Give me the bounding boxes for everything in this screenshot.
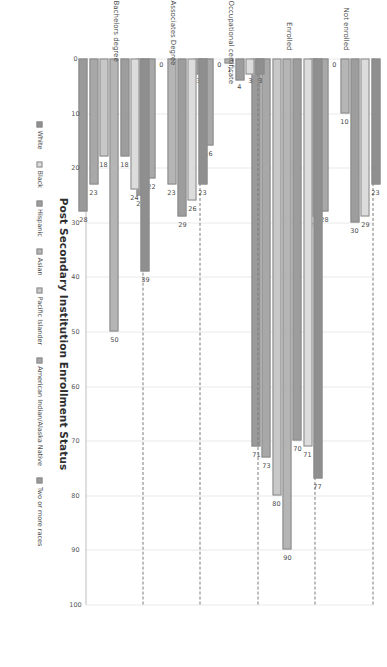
legend-item[interactable]: White bbox=[35, 121, 43, 149]
legend-label: Pacific Islander bbox=[35, 296, 43, 345]
bar-value-label: 23 bbox=[167, 188, 176, 196]
bar-row: 1 bbox=[225, 58, 234, 604]
legend-swatch-icon bbox=[36, 287, 42, 293]
bar-row: 77 bbox=[313, 58, 322, 604]
bar-value-label: 0 bbox=[217, 60, 221, 68]
bar-two-or-more-races[interactable] bbox=[78, 58, 87, 211]
chart-figure: 2329301002829777170908073713341016323262… bbox=[0, 0, 387, 667]
bar-white[interactable] bbox=[313, 58, 322, 478]
legend-label: Black bbox=[35, 170, 43, 188]
bar-row: 23 bbox=[167, 58, 176, 604]
plot-canvas: 2329301002829777170908073713341016323262… bbox=[85, 58, 373, 604]
chart-title: Post Secondary Institution Enrollment St… bbox=[57, 0, 69, 667]
bar-row: 71 bbox=[303, 58, 312, 604]
legend-swatch-icon bbox=[36, 200, 42, 206]
bar-value-label: 77 bbox=[313, 483, 322, 491]
bar-row: 29 bbox=[177, 58, 186, 604]
bar-row: 50 bbox=[109, 58, 118, 604]
bar-row: 23 bbox=[198, 58, 207, 604]
bar-row: 30 bbox=[350, 58, 359, 604]
bar-row: 39 bbox=[140, 58, 149, 604]
bar-value-label: 0 bbox=[159, 60, 163, 68]
legend-item[interactable]: Hispanic bbox=[35, 200, 43, 237]
bar-black[interactable] bbox=[130, 58, 139, 189]
category-label: Occupational certificate bbox=[226, 0, 234, 54]
bar-value-label: 18 bbox=[99, 161, 108, 169]
bar-row: 26 bbox=[188, 58, 197, 604]
bar-black[interactable] bbox=[188, 58, 197, 200]
bar-value-label: 3 bbox=[258, 77, 262, 85]
legend-item[interactable]: American Indian/Alaska Native bbox=[35, 357, 43, 466]
bar-white[interactable] bbox=[255, 58, 264, 74]
bar-row: 3 bbox=[245, 58, 254, 604]
bar-row: 18 bbox=[120, 58, 129, 604]
bar-value-label: 80 bbox=[272, 499, 281, 507]
bar-value-label: 26 bbox=[188, 204, 197, 212]
bar-row: 18 bbox=[99, 58, 108, 604]
legend-swatch-icon bbox=[36, 357, 42, 363]
legend-swatch-icon bbox=[36, 477, 42, 483]
bar-white[interactable] bbox=[198, 58, 207, 184]
chart-legend: WhiteBlackHispanicAsianPacific IslanderA… bbox=[35, 0, 43, 667]
plot-area: 2329301002829777170908073713341016323262… bbox=[85, 58, 373, 604]
bar-value-label: 71 bbox=[303, 450, 312, 458]
bar-pacific-islander[interactable] bbox=[272, 58, 281, 495]
chart-screenshot: 2329301002829777170908073713341016323262… bbox=[0, 0, 387, 667]
bar-value-label: 23 bbox=[198, 188, 207, 196]
bar-value-label: 23 bbox=[371, 188, 380, 196]
category-label: Associates Degree bbox=[168, 0, 176, 54]
bar-value-label: 90 bbox=[282, 554, 291, 562]
bar-pacific-islander[interactable] bbox=[99, 58, 108, 156]
bar-value-label: 29 bbox=[360, 221, 369, 229]
legend-item[interactable]: Asian bbox=[35, 248, 43, 275]
bar-black[interactable] bbox=[360, 58, 369, 216]
bar-white[interactable] bbox=[140, 58, 149, 271]
category-label: Bachelors degree bbox=[111, 0, 119, 54]
bar-value-label: 50 bbox=[109, 335, 118, 343]
bar-asian[interactable] bbox=[340, 58, 349, 113]
bar-white[interactable] bbox=[371, 58, 380, 184]
bar-black[interactable] bbox=[303, 58, 312, 446]
legend-swatch-icon bbox=[36, 248, 42, 254]
bar-hispanic[interactable] bbox=[235, 58, 244, 80]
bar-asian[interactable] bbox=[282, 58, 291, 549]
legend-swatch-icon bbox=[36, 121, 42, 127]
legend-item[interactable]: Black bbox=[35, 161, 43, 188]
legend-swatch-icon bbox=[36, 161, 42, 167]
bar-value-label: 24 bbox=[130, 193, 139, 201]
bar-value-label: 18 bbox=[120, 161, 129, 169]
bar-american-indian-alaska-native[interactable] bbox=[89, 58, 98, 184]
category-label: Not enrolled bbox=[341, 0, 349, 54]
bar-hispanic[interactable] bbox=[350, 58, 359, 222]
bar-row: 4 bbox=[235, 58, 244, 604]
bar-row: 80 bbox=[272, 58, 281, 604]
bar-black[interactable] bbox=[245, 58, 254, 74]
bar-row: 0 bbox=[157, 58, 166, 604]
bar-value-label: 29 bbox=[177, 221, 186, 229]
bar-row: 70 bbox=[292, 58, 301, 604]
bar-row: 29 bbox=[360, 58, 369, 604]
bar-value-label: 10 bbox=[340, 117, 349, 125]
bar-row: 23 bbox=[371, 58, 380, 604]
bar-value-label: 4 bbox=[237, 82, 241, 90]
legend-label: Asian bbox=[35, 257, 43, 275]
bar-row: 10 bbox=[340, 58, 349, 604]
bar-hispanic[interactable] bbox=[292, 58, 301, 440]
bar-value-label: 3 bbox=[247, 77, 251, 85]
bar-asian[interactable] bbox=[109, 58, 118, 331]
bar-row: 90 bbox=[282, 58, 291, 604]
bar-row: 0 bbox=[329, 58, 338, 604]
bar-asian[interactable] bbox=[167, 58, 176, 184]
bar-value-label: 39 bbox=[140, 275, 149, 283]
category-label: Enrolled bbox=[284, 0, 292, 54]
legend-label: Hispanic bbox=[35, 209, 43, 237]
legend-item[interactable]: Two or more races bbox=[35, 477, 43, 546]
bar-value-label: 30 bbox=[350, 226, 359, 234]
bar-row: 3 bbox=[255, 58, 264, 604]
bar-hispanic[interactable] bbox=[177, 58, 186, 216]
bar-hispanic[interactable] bbox=[120, 58, 129, 156]
legend-label: Two or more races bbox=[35, 486, 43, 546]
legend-item[interactable]: Pacific Islander bbox=[35, 287, 43, 345]
bar-value-label: 70 bbox=[293, 445, 302, 453]
legend-label: American Indian/Alaska Native bbox=[35, 366, 43, 466]
